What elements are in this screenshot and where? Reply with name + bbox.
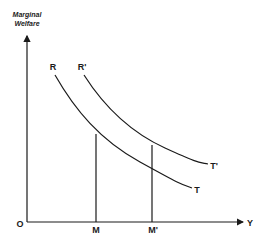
y-axis-label-line2: Welfare	[14, 20, 39, 27]
diagram-canvas: Marginal Welfare O Y R R' T T' M M'	[0, 0, 266, 241]
marker-m-prime-label: M'	[148, 225, 158, 235]
origin-label: O	[16, 219, 23, 229]
curve-t-label: T	[194, 185, 200, 195]
curve-t-prime-label: T'	[210, 161, 218, 171]
marker-m-label: M	[92, 225, 100, 235]
y-axis-label-line1: Marginal	[13, 11, 43, 19]
curve-r-label: R	[50, 62, 57, 72]
curve-rt-prime	[84, 75, 208, 164]
x-axis-label: Y	[247, 218, 253, 228]
curve-r-prime-label: R'	[78, 62, 87, 72]
curve-rt	[55, 75, 192, 188]
